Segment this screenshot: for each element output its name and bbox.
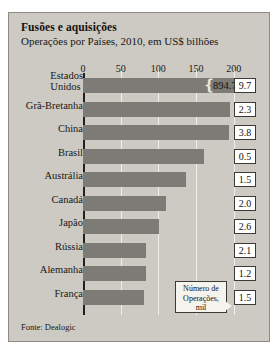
chart-source: Fonte: Dealogic [21,322,76,332]
bar-row: Brasil0.5 [21,148,259,165]
operations-value-box: 2.6 [234,219,256,234]
category-label: China [58,123,83,134]
operations-value-box: 9.7 [234,78,256,93]
category-label: Japão [59,217,83,228]
bar-row: China3.8 [21,124,259,141]
callout-pointer-icon [225,301,232,311]
operations-value-box: 0.5 [234,149,256,164]
bar [83,149,204,164]
bar-row: Austrália1.5 [21,171,259,188]
bar [83,290,144,305]
operations-value-box: 2.1 [234,243,256,258]
axis-break-icon: ❴ [203,78,212,93]
category-label: Austrália [45,170,84,181]
bar [83,219,159,234]
bar-row: Rússia2.1 [21,242,259,259]
category-label: Grã-Bretanha [26,100,83,111]
bar-row: Japão2.6 [21,218,259,235]
category-label: França [54,288,83,299]
operations-callout: Número de Operações, mil [175,281,227,313]
callout-line-2: Operações, [176,294,226,304]
bar [83,172,186,187]
category-label: Rússia [55,241,83,252]
callout-line-1: Número de [176,284,226,294]
bar-row: EstadosUnidos❴894.79.7 [21,77,259,94]
category-label: Alemanha [40,264,83,275]
callout-line-3: mil [176,303,226,313]
category-label: Brasil [58,147,83,158]
operations-value-box: 1.2 [234,266,256,281]
chart-title: Fusões e aquisições [21,21,117,33]
bar [83,196,166,211]
bar-rows: EstadosUnidos❴894.79.7Grã-Bretanha2.3Chi… [21,77,259,315]
chart-subtitle: Operações por Países, 2010, em US$ bilhõ… [21,35,218,47]
operations-value-box: 1.5 [234,172,256,187]
bar [83,125,229,140]
bar-row: Alemanha1.2 [21,265,259,282]
bar-row: Canadá2.0 [21,195,259,212]
category-label: Canadá [52,194,84,205]
bar-row: Grã-Bretanha2.3 [21,101,259,118]
category-label: EstadosUnidos [50,70,83,92]
operations-value-box: 1.5 [234,290,256,305]
bar [83,243,146,258]
chart-figure: Fusões e aquisições Operações por Países… [8,12,270,342]
operations-value-box: 2.0 [234,196,256,211]
operations-value-box: 2.3 [234,102,256,117]
operations-value-box: 3.8 [234,125,256,140]
plot-area: 050100150200 EstadosUnidos❴894.79.7Grã-B… [21,63,259,315]
bar [83,266,146,281]
bar [83,102,230,117]
